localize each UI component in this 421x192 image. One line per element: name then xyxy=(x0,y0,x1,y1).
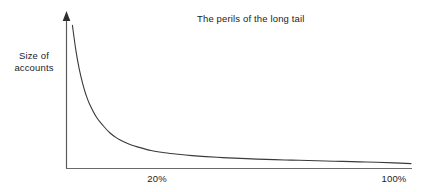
long-tail-chart-plot xyxy=(0,0,421,192)
y-axis-label-line1: Size of xyxy=(19,50,49,61)
long-tail-curve xyxy=(72,25,411,163)
y-axis-label-line2: accounts xyxy=(14,62,53,73)
y-axis-label: Size ofaccounts xyxy=(8,50,60,74)
chart-title: The perils of the long tail xyxy=(197,13,305,25)
x-axis-tick-label-20: 20% xyxy=(136,173,178,185)
x-axis-tick-label-100: 100% xyxy=(372,173,416,185)
y-axis-arrow-icon xyxy=(63,11,71,21)
chart-container: The perils of the long tail Size ofaccou… xyxy=(0,0,421,192)
